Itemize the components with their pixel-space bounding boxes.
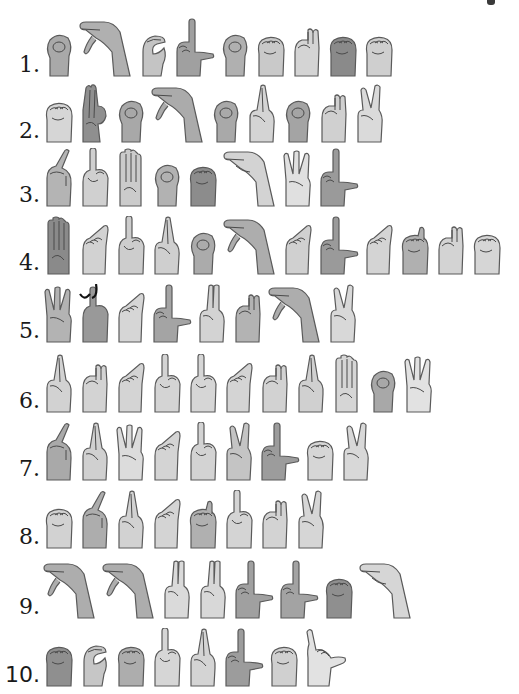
hand-sign-a-icon bbox=[150, 422, 183, 482]
hand-sign-h-icon bbox=[358, 560, 414, 620]
puzzle-row: 4. bbox=[0, 212, 503, 276]
hand-sign-sequence bbox=[42, 354, 435, 414]
puzzle-row: 10. bbox=[0, 624, 345, 688]
hand-sign-f-icon bbox=[78, 84, 111, 144]
hand-sign-h-icon bbox=[222, 148, 278, 208]
hand-sign-l-icon bbox=[222, 628, 264, 688]
hand-sign-u-icon bbox=[196, 560, 229, 620]
hand-sign-n-icon bbox=[258, 490, 291, 550]
hand-sign-x-icon bbox=[78, 490, 111, 550]
row-number: 1. bbox=[0, 54, 40, 78]
row-number: 5. bbox=[0, 320, 40, 344]
hand-sign-w-icon bbox=[402, 354, 435, 414]
row-number: 10. bbox=[0, 664, 40, 688]
hand-sign-o-icon bbox=[281, 84, 314, 144]
row-number: 9. bbox=[0, 596, 40, 620]
hand-sign-sequence bbox=[42, 18, 395, 78]
hand-sign-s-icon bbox=[322, 560, 355, 620]
hand-sign-k-icon bbox=[326, 284, 359, 344]
hand-sign-a-icon bbox=[150, 490, 183, 550]
hand-sign-p-icon bbox=[150, 84, 206, 144]
hand-sign-l-icon bbox=[317, 148, 359, 208]
hand-sign-k-icon bbox=[353, 84, 386, 144]
hand-sign-a-icon bbox=[222, 354, 255, 414]
hand-sign-n-icon bbox=[317, 84, 350, 144]
hand-sign-s-icon bbox=[42, 84, 75, 144]
hand-sign-k-icon bbox=[294, 490, 327, 550]
hand-sign-n-icon bbox=[258, 354, 291, 414]
hand-sign-s-icon bbox=[42, 490, 75, 550]
hand-sign-a-icon bbox=[362, 216, 395, 276]
hand-sign-t-icon bbox=[398, 216, 431, 276]
hand-sign-t-icon bbox=[186, 490, 219, 550]
hand-sign-a-icon bbox=[78, 216, 111, 276]
hand-sign-o-icon bbox=[209, 84, 242, 144]
hand-sign-s-icon bbox=[114, 628, 147, 688]
hand-sign-l-icon bbox=[232, 560, 274, 620]
hand-sign-w-icon bbox=[114, 422, 147, 482]
hand-sign-o-icon bbox=[218, 18, 251, 78]
hand-sign-p-icon bbox=[42, 560, 98, 620]
hand-sign-p-icon bbox=[267, 284, 323, 344]
hand-sign-i-icon bbox=[114, 216, 147, 276]
hand-sign-k-icon bbox=[339, 422, 372, 482]
hand-sign-s-icon bbox=[42, 628, 75, 688]
hand-sign-w-icon bbox=[281, 148, 314, 208]
hand-sign-sequence bbox=[42, 628, 345, 688]
puzzle-row: 2. bbox=[0, 80, 386, 144]
hand-sign-sequence bbox=[42, 284, 359, 344]
hand-sign-s-icon bbox=[186, 148, 219, 208]
hand-sign-l-icon bbox=[150, 284, 192, 344]
hand-sign-x-icon bbox=[42, 148, 75, 208]
hand-sign-sequence bbox=[42, 560, 414, 620]
hand-sign-s-icon bbox=[254, 18, 287, 78]
hand-sign-n-icon bbox=[78, 354, 111, 414]
hand-sign-i-icon bbox=[150, 628, 183, 688]
row-number: 2. bbox=[0, 120, 40, 144]
hand-sign-s-icon bbox=[267, 628, 300, 688]
hand-sign-o-icon bbox=[114, 84, 147, 144]
hand-sign-l-icon bbox=[277, 560, 319, 620]
hand-sign-n-icon bbox=[231, 284, 264, 344]
row-number: 3. bbox=[0, 184, 40, 208]
hand-sign-r-icon bbox=[186, 628, 219, 688]
hand-sign-i-icon bbox=[150, 354, 183, 414]
puzzle-row: 6. bbox=[0, 350, 435, 414]
hand-sign-sequence bbox=[42, 148, 359, 208]
hand-sign-i-icon bbox=[222, 490, 255, 550]
row-number: 7. bbox=[0, 458, 40, 482]
hand-sign-o-icon bbox=[366, 354, 399, 414]
hand-sign-u-icon bbox=[160, 560, 193, 620]
hand-sign-n-icon bbox=[290, 18, 323, 78]
hand-sign-b-icon bbox=[42, 216, 75, 276]
hand-sign-p-icon bbox=[101, 560, 157, 620]
hand-sign-n-icon bbox=[434, 216, 467, 276]
hand-sign-b-icon bbox=[330, 354, 363, 414]
hand-sign-sequence bbox=[42, 84, 386, 144]
hand-sign-o-icon bbox=[186, 216, 219, 276]
hand-sign-c-icon bbox=[78, 628, 111, 688]
hand-sign-l-icon bbox=[173, 18, 215, 78]
hand-sign-s-icon bbox=[362, 18, 395, 78]
hand-sign-s-icon bbox=[326, 18, 359, 78]
hand-sign-r-icon bbox=[78, 422, 111, 482]
puzzle-row: 9. bbox=[0, 556, 414, 620]
row-number: 8. bbox=[0, 526, 40, 550]
puzzle-row: 3. bbox=[0, 144, 359, 208]
hand-sign-b-icon bbox=[114, 148, 147, 208]
hand-sign-i-icon bbox=[186, 354, 219, 414]
hand-sign-i-icon bbox=[186, 422, 219, 482]
hand-sign-s-icon bbox=[470, 216, 503, 276]
puzzle-row: 1. bbox=[0, 14, 395, 78]
hand-sign-w-icon bbox=[42, 284, 75, 344]
hand-sign-y-icon bbox=[303, 628, 345, 688]
hand-sign-p-icon bbox=[78, 18, 134, 78]
hand-sign-a-icon bbox=[281, 216, 314, 276]
hand-sign-sequence bbox=[42, 490, 327, 550]
hand-sign-a-icon bbox=[114, 354, 147, 414]
hand-sign-sequence bbox=[42, 422, 372, 482]
hand-sign-l-icon bbox=[258, 422, 300, 482]
hand-sign-s-icon bbox=[303, 422, 336, 482]
hand-sign-p-icon bbox=[222, 216, 278, 276]
hand-sign-o-icon bbox=[42, 18, 75, 78]
